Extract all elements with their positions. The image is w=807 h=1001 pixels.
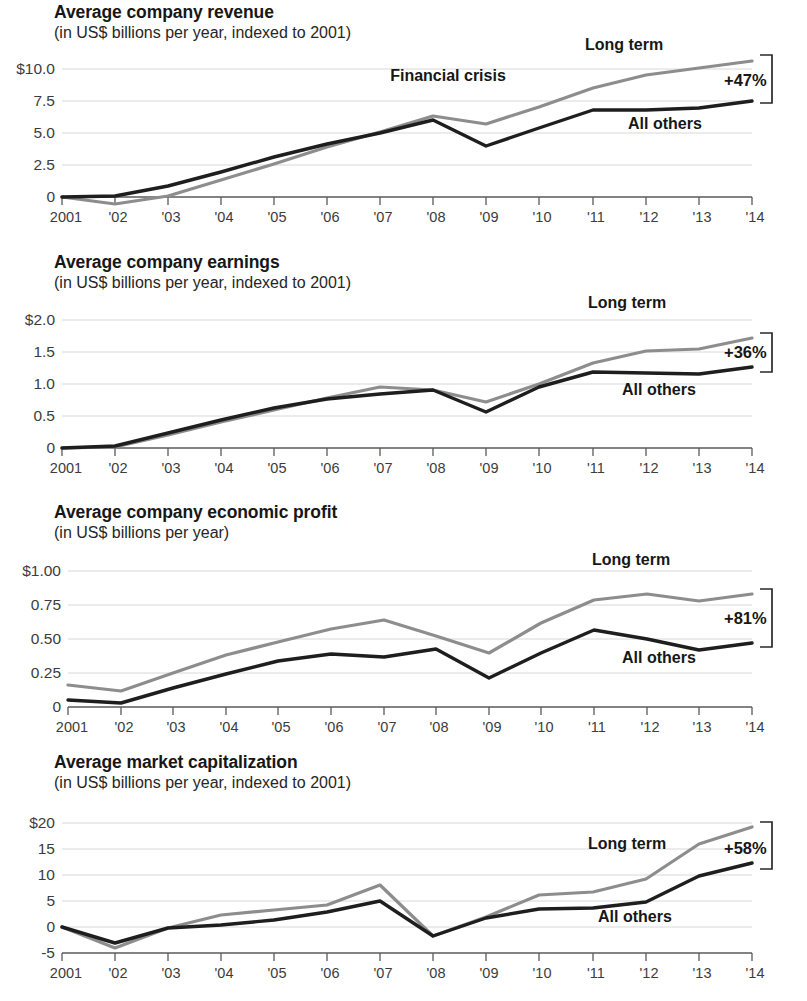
x-tick-label: '03	[167, 719, 186, 735]
annotation-financial-crisis: Financial crisis	[390, 67, 506, 84]
series-line-long-term	[68, 594, 752, 691]
x-tick-label: '07	[374, 965, 393, 981]
series-line-all-others	[68, 630, 752, 703]
x-tick-label: '02	[109, 209, 128, 225]
x-axis-tickmarks	[68, 707, 752, 715]
y-tick-label: -5	[41, 944, 55, 961]
y-tick-label: 0	[52, 698, 61, 715]
chart-panel-earnings: Average company earnings (in US$ billion…	[0, 250, 807, 500]
x-tick-label: '14	[746, 209, 765, 225]
series-label-long-term: Long term	[588, 835, 666, 852]
x-tick-label: '06	[321, 965, 340, 981]
y-tick-label: $1.00	[22, 562, 61, 579]
gridlines	[62, 320, 752, 416]
y-axis-ticks: $2.0 1.5 1.0 0.5 0	[25, 311, 56, 456]
x-tick-label: '02	[115, 719, 134, 735]
y-axis-ticks: $1.00 0.75 0.50 0.25 0	[22, 562, 61, 715]
x-tick-label: '09	[483, 719, 502, 735]
x-tick-label: '06	[321, 209, 340, 225]
x-tick-label: '10	[533, 460, 552, 476]
x-tick-label: '04	[220, 719, 239, 735]
series-label-all-others: All others	[598, 908, 672, 925]
y-axis-ticks: $20 15 10 5 0 -5	[29, 814, 55, 961]
bracket-label-economic-profit: +81%	[724, 609, 767, 627]
x-axis-tickmarks	[62, 953, 752, 961]
x-tick-label: '08	[427, 460, 446, 476]
x-tick-label: '06	[321, 460, 340, 476]
x-tick-label: '05	[268, 209, 287, 225]
series-label-long-term: Long term	[585, 36, 663, 53]
x-tick-label: '12	[640, 209, 659, 225]
chart-figure: Average company revenue (in US$ billions…	[0, 0, 807, 1001]
chart-panel-economic-profit: Average company economic profit (in US$ …	[0, 500, 807, 750]
y-tick-label: 5	[46, 892, 55, 909]
y-tick-label: 15	[38, 840, 55, 857]
y-tick-label: 0.25	[31, 664, 61, 681]
y-axis-ticks: $10.0 7.5 5.0 2.5 0	[16, 60, 55, 205]
x-tick-label: '14	[746, 460, 765, 476]
x-tick-label: '13	[693, 965, 712, 981]
y-tick-label: 10	[38, 866, 56, 883]
x-tick-label: '04	[215, 460, 234, 476]
plot-area-revenue: $10.0 7.5 5.0 2.5 0	[0, 0, 807, 251]
x-tick-label: '04	[215, 209, 234, 225]
x-axis-labels: 2001 '02 '03 '04 '05 '06 '07 '08 '09 '10…	[50, 209, 765, 225]
x-axis-labels: 2001 '02 '03 '04 '05 '06 '07 '08 '09 '10…	[56, 719, 765, 735]
y-tick-label: 0.75	[31, 596, 61, 613]
series-label-all-others: All others	[628, 115, 702, 132]
x-tick-label: '07	[378, 719, 397, 735]
x-tick-label: '03	[162, 965, 181, 981]
x-tick-label: '11	[587, 965, 605, 981]
plot-area-earnings: $2.0 1.5 1.0 0.5 0	[0, 250, 807, 501]
x-tick-label: '09	[480, 209, 499, 225]
x-tick-label: '12	[640, 460, 659, 476]
x-tick-label: '14	[746, 965, 765, 981]
x-axis-labels: 2001 '02 '03 '04 '05 '06 '07 '08 '09 '10…	[50, 965, 765, 981]
x-tick-label: 2001	[50, 460, 82, 476]
plot-area-market-cap: $20 15 10 5 0 -5	[0, 750, 807, 1001]
x-tick-label: '08	[427, 209, 446, 225]
y-tick-label: 1.0	[33, 375, 55, 392]
x-tick-label: '13	[693, 460, 712, 476]
x-tick-label: '09	[480, 460, 499, 476]
bracket-label-market-cap: +58%	[724, 839, 767, 857]
y-tick-label: 0.5	[33, 407, 55, 424]
chart-panel-market-cap: Average market capitalization (in US$ bi…	[0, 750, 807, 1001]
bracket-label-earnings: +36%	[724, 343, 767, 361]
x-tick-label: 2001	[50, 965, 82, 981]
x-tick-label: '10	[535, 719, 554, 735]
y-tick-label: 5.0	[33, 124, 55, 141]
chart-panel-revenue: Average company revenue (in US$ billions…	[0, 0, 807, 250]
x-tick-label: '03	[162, 460, 181, 476]
x-tick-label: '02	[109, 965, 128, 981]
series-label-all-others: All others	[622, 381, 696, 398]
x-axis-labels: 2001 '02 '03 '04 '05 '06 '07 '08 '09 '10…	[50, 460, 765, 476]
bracket-label-revenue: +47%	[724, 71, 767, 89]
x-tick-label: '12	[641, 719, 660, 735]
x-tick-label: '02	[109, 460, 128, 476]
series-label-long-term: Long term	[592, 551, 670, 568]
x-tick-label: '11	[588, 719, 606, 735]
x-tick-label: '05	[268, 965, 287, 981]
x-tick-label: '03	[162, 209, 181, 225]
x-axis-tickmarks	[62, 448, 752, 456]
y-tick-label: $10.0	[16, 60, 55, 77]
y-tick-label: $20	[29, 814, 55, 831]
x-tick-label: 2001	[56, 719, 88, 735]
x-tick-label: '04	[215, 965, 234, 981]
x-tick-label: '12	[640, 965, 659, 981]
y-tick-label: 1.5	[33, 343, 55, 360]
y-tick-label: 0	[46, 918, 55, 935]
x-tick-label: '06	[325, 719, 344, 735]
x-tick-label: '10	[533, 209, 552, 225]
x-tick-label: '10	[533, 965, 552, 981]
y-tick-label: 7.5	[33, 92, 55, 109]
x-tick-label: '07	[374, 209, 393, 225]
x-tick-label: '08	[427, 965, 446, 981]
x-axis-tickmarks	[62, 197, 752, 205]
y-tick-label: 2.5	[33, 156, 55, 173]
x-tick-label: '07	[374, 460, 393, 476]
y-tick-label: $2.0	[25, 311, 56, 328]
x-tick-label: 2001	[50, 209, 82, 225]
plot-area-economic-profit: $1.00 0.75 0.50 0.25 0	[0, 500, 807, 751]
